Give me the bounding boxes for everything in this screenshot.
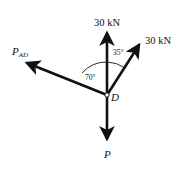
- label-angle-35: 35°: [113, 48, 124, 57]
- label-node-d: D: [110, 91, 119, 103]
- angle-arc-70: [82, 62, 107, 73]
- angle-arc-35: [107, 62, 125, 68]
- label-angle-70: 70°: [85, 73, 96, 82]
- free-body-diagram: 30 kN 30 kN PAD P D 70° 35°: [0, 0, 180, 170]
- label-pad-force: PAD: [11, 45, 28, 59]
- label-up-force: 30 kN: [94, 17, 120, 28]
- label-p-force: P: [103, 148, 111, 160]
- label-upright-force: 30 kN: [145, 35, 171, 46]
- node-d: [105, 93, 109, 97]
